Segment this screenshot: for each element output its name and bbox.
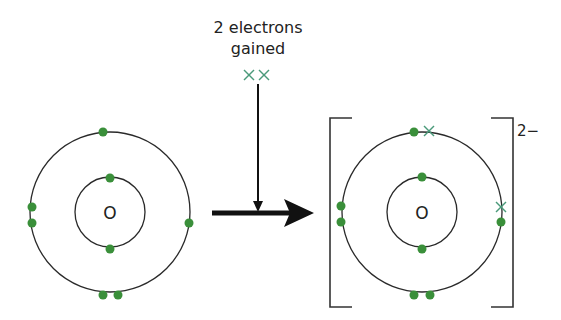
atom-symbol: O bbox=[103, 203, 116, 223]
gained-electrons-icon bbox=[244, 70, 269, 80]
left-bracket bbox=[330, 118, 352, 307]
down-arrowhead-icon bbox=[253, 201, 263, 212]
charge-label: 2− bbox=[517, 122, 539, 140]
oxygen-atom: O bbox=[28, 128, 194, 300]
gained-electron-crosses-icon bbox=[424, 126, 506, 212]
ion-symbol: O bbox=[415, 203, 428, 223]
heading-line-2: gained bbox=[231, 39, 286, 58]
heading-line-1: 2 electrons bbox=[214, 18, 303, 37]
ion-formation-diagram: 2 electrons gained O 2− O bbox=[0, 0, 561, 320]
oxide-ion: 2− O bbox=[330, 118, 539, 307]
